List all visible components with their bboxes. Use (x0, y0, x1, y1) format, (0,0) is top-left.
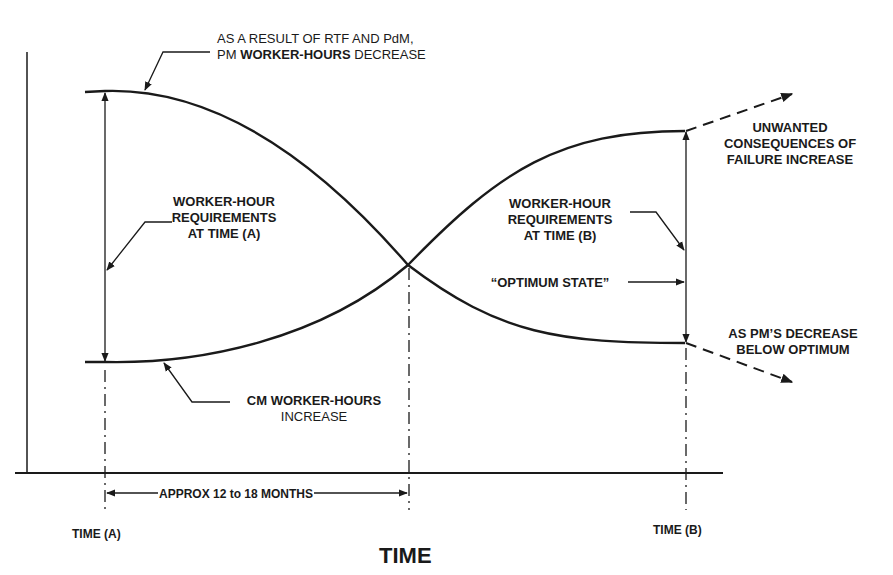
req-a-line2: REQUIREMENTS (168, 210, 280, 226)
pm-decrease-line2: PM WORKER-HOURS DECREASE (217, 47, 426, 63)
pm-decrease-annotation: AS A RESULT OF RTF AND PdM, PM WORKER-HO… (217, 31, 426, 63)
below-optimum-annotation: AS PM’S DECREASE BELOW OPTIMUM (713, 326, 873, 358)
duration-label: APPROX 12 to 18 MONTHS (158, 486, 314, 502)
pm-decrease-prefix: PM (217, 47, 240, 62)
unwanted-line3: FAILURE INCREASE (710, 152, 870, 168)
req-time-a-annotation: WORKER-HOUR REQUIREMENTS AT TIME (A) (168, 194, 280, 242)
pm-decrease-leader (145, 52, 210, 90)
req-b-leader (630, 212, 684, 250)
below-optimum-line2: BELOW OPTIMUM (713, 342, 873, 358)
unwanted-line2: CONSEQUENCES OF (710, 136, 870, 152)
pm-decrease-suffix: DECREASE (351, 47, 426, 62)
req-time-b-annotation: WORKER-HOUR REQUIREMENTS AT TIME (B) (495, 196, 625, 244)
below-optimum-line1: AS PM’S DECREASE (713, 326, 873, 342)
req-a-leader (107, 222, 172, 270)
unwanted-line1: UNWANTED (710, 120, 870, 136)
pm-decrease-bold: WORKER-HOURS (240, 47, 351, 62)
req-b-line3: AT TIME (B) (495, 228, 625, 244)
unwanted-consequences-annotation: UNWANTED CONSEQUENCES OF FAILURE INCREAS… (710, 120, 870, 168)
optimum-state-label: “OPTIMUM STATE” (474, 275, 626, 291)
req-b-line2: REQUIREMENTS (495, 212, 625, 228)
req-b-line1: WORKER-HOUR (495, 196, 625, 212)
req-a-line1: WORKER-HOUR (168, 194, 280, 210)
req-a-line3: AT TIME (A) (168, 226, 280, 242)
cm-increase-line1: CM WORKER-HOURS (234, 393, 394, 409)
time-a-label: TIME (A) (72, 526, 121, 542)
cm-increase-line2: INCREASE (234, 409, 394, 425)
time-b-label: TIME (B) (653, 522, 702, 538)
diagram-canvas (0, 0, 893, 575)
x-axis-title: TIME (379, 544, 432, 568)
cm-increase-annotation: CM WORKER-HOURS INCREASE (234, 393, 394, 425)
cm-increase-leader (164, 363, 230, 402)
cm-curve (85, 131, 685, 362)
pm-decrease-line1: AS A RESULT OF RTF AND PdM, (217, 31, 426, 47)
